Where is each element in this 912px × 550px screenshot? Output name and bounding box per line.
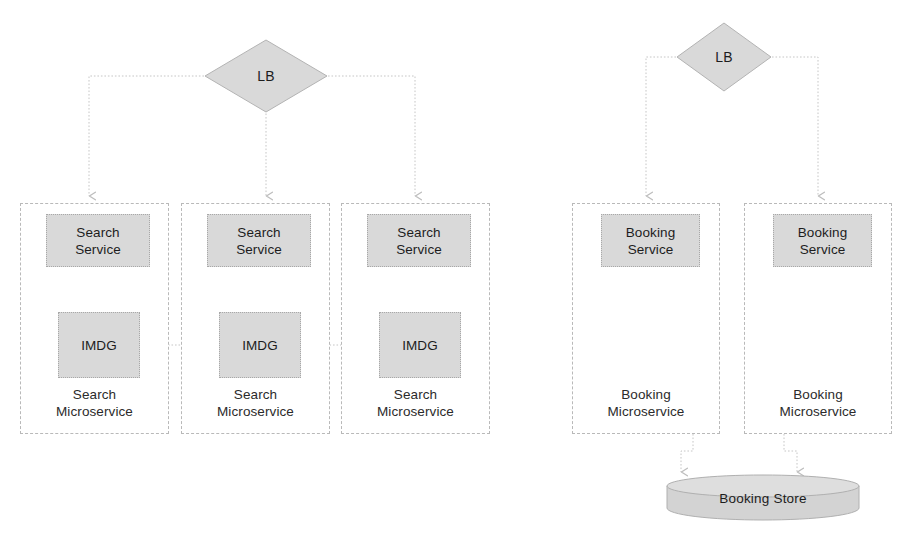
edge-lb-booking-to-ms2 bbox=[772, 57, 818, 196]
imdg-1-label: IMDG bbox=[81, 337, 117, 354]
booking-microservice-2-label-line2: Microservice bbox=[780, 404, 857, 419]
booking-microservice-1-label: Booking Microservice bbox=[573, 386, 719, 420]
booking-microservice-2-label: Booking Microservice bbox=[745, 386, 891, 420]
load-balancer-booking[interactable]: LB bbox=[676, 22, 772, 92]
search-microservice-1-label-line1: Search bbox=[73, 387, 116, 402]
architecture-diagram: LB Search Service IMDG Search Microservi… bbox=[0, 0, 912, 550]
booking-microservice-2-label-line1: Booking bbox=[793, 387, 843, 402]
booking-microservice-2-container[interactable]: Booking Service Booking Microservice bbox=[744, 203, 892, 434]
edge-lb-search-to-ms3 bbox=[328, 76, 415, 196]
booking-service-2-label-line1: Booking bbox=[798, 224, 848, 241]
imdg-2-label: IMDG bbox=[242, 337, 278, 354]
booking-microservice-1-label-line2: Microservice bbox=[608, 404, 685, 419]
search-service-3-label-line2: Service bbox=[396, 241, 442, 258]
search-microservice-3-container[interactable]: Search Service IMDG Search Microservice bbox=[341, 203, 490, 434]
load-balancer-booking-label: LB bbox=[676, 22, 772, 92]
search-microservice-1-label: Search Microservice bbox=[21, 386, 168, 420]
search-microservice-2-container[interactable]: Search Service IMDG Search Microservice bbox=[181, 203, 330, 434]
search-service-2-box[interactable]: Search Service bbox=[207, 214, 311, 267]
imdg-3-box[interactable]: IMDG bbox=[379, 312, 461, 378]
edge-booking-ms2-to-store bbox=[784, 434, 797, 472]
booking-service-1-label-line2: Service bbox=[626, 241, 676, 258]
edge-lb-booking-to-ms1 bbox=[646, 57, 676, 196]
search-microservice-1-label-line2: Microservice bbox=[56, 404, 133, 419]
search-microservice-2-label-line1: Search bbox=[234, 387, 277, 402]
search-microservice-3-label-line2: Microservice bbox=[377, 404, 454, 419]
search-microservice-3-label: Search Microservice bbox=[342, 386, 489, 420]
search-microservice-1-container[interactable]: Search Service IMDG Search Microservice bbox=[20, 203, 169, 434]
imdg-2-box[interactable]: IMDG bbox=[219, 312, 301, 378]
booking-service-2-box[interactable]: Booking Service bbox=[773, 214, 872, 267]
edge-lb-search-to-ms1 bbox=[89, 76, 204, 196]
booking-store-label: Booking Store bbox=[665, 474, 861, 522]
booking-service-1-box[interactable]: Booking Service bbox=[601, 214, 700, 267]
search-microservice-3-label-line1: Search bbox=[394, 387, 437, 402]
imdg-3-label: IMDG bbox=[402, 337, 438, 354]
imdg-1-box[interactable]: IMDG bbox=[58, 312, 140, 378]
booking-microservice-1-label-line1: Booking bbox=[621, 387, 671, 402]
load-balancer-search-label: LB bbox=[204, 39, 328, 113]
search-microservice-2-label: Search Microservice bbox=[182, 386, 329, 420]
load-balancer-search[interactable]: LB bbox=[204, 39, 328, 113]
edge-booking-ms1-to-store bbox=[681, 434, 693, 472]
search-service-2-label-line1: Search bbox=[236, 224, 282, 241]
search-service-3-label-line1: Search bbox=[396, 224, 442, 241]
booking-service-1-label-line1: Booking bbox=[626, 224, 676, 241]
search-service-3-box[interactable]: Search Service bbox=[367, 214, 471, 267]
booking-service-2-label-line2: Service bbox=[798, 241, 848, 258]
search-microservice-2-label-line2: Microservice bbox=[217, 404, 294, 419]
search-service-1-label-line1: Search bbox=[75, 224, 121, 241]
booking-store[interactable]: Booking Store bbox=[665, 474, 861, 522]
booking-microservice-1-container[interactable]: Booking Service Booking Microservice bbox=[572, 203, 720, 434]
search-service-2-label-line2: Service bbox=[236, 241, 282, 258]
search-service-1-label-line2: Service bbox=[75, 241, 121, 258]
search-service-1-box[interactable]: Search Service bbox=[46, 214, 150, 267]
